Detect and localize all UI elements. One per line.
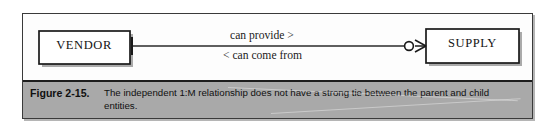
figure-caption-text: The independent 1:M relationship does no… — [102, 87, 524, 113]
relationship-label-below: < can come from — [223, 49, 302, 62]
optional-circle-symbol — [405, 42, 414, 51]
supply-entity-label: SUPPLY — [426, 36, 519, 51]
relationship-label-above: can provide > — [230, 29, 294, 42]
crowsfoot-symbol — [415, 40, 426, 52]
vendor-entity-label: VENDOR — [39, 38, 129, 53]
figure-caption-band: Figure 2-15. The independent 1:M relatio… — [23, 80, 532, 118]
figure-frame: VENDOR SUPPLY can provide > < can come f… — [22, 13, 533, 119]
er-diagram: VENDOR SUPPLY can provide > < can come f… — [23, 14, 532, 81]
figure-number-label: Figure 2-15. — [30, 87, 102, 101]
